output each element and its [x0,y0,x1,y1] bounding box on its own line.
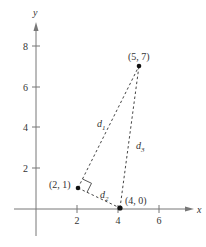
segment-label-d2: d2 [100,189,109,203]
segment-d2 [78,188,120,208]
x-axis-arrow-icon [185,207,194,212]
point-label-5-7: (5, 7) [128,51,150,63]
y-tick-label: 4 [23,122,28,133]
segment-label-d1: d1 [97,118,106,132]
x-axis-label: x [196,204,202,215]
y-tick-label: 2 [23,163,28,174]
segment-label-d3: d3 [136,140,145,154]
segment-d3 [120,66,139,208]
y-tick-label: 6 [23,82,28,93]
segments [78,66,139,208]
point-5-7 [137,64,142,69]
point-label-2-1: (2, 1) [49,179,71,191]
x-tick-label: 4 [116,215,121,226]
x-tick-label: 2 [75,215,80,226]
x-tick-label: 6 [157,215,162,226]
coordinate-plane: x y 2 4 6 2 4 6 8 d1 d2 d3 [0,0,206,247]
point-2-1 [76,186,81,191]
y-ticks: 2 4 6 8 [23,41,40,174]
y-axis-arrow-icon [34,22,39,31]
y-axis-label: y [32,7,38,18]
y-tick-label: 8 [23,41,28,52]
point-4-0 [117,205,122,210]
point-label-4-0: (4, 0) [125,195,147,207]
segment-d1 [78,66,139,188]
segment-labels: d1 d2 d3 [97,118,145,203]
